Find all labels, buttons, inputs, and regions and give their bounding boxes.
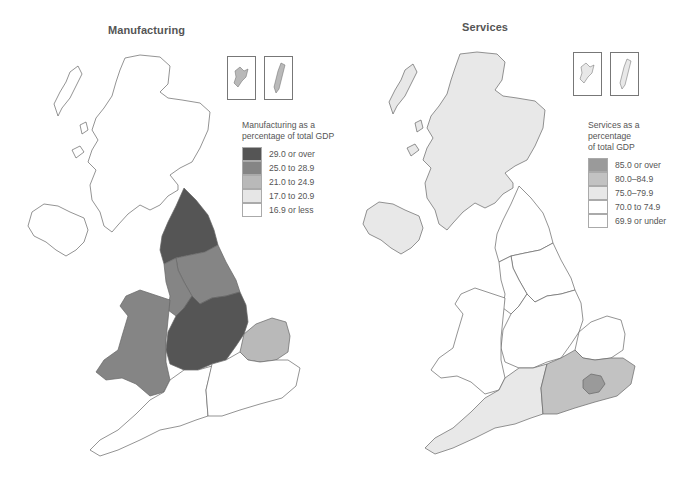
services-legend: Services as a percentageof total GDP 85.…	[588, 120, 674, 228]
legend-swatch	[242, 203, 262, 217]
shetland-inset-2	[610, 52, 639, 96]
region-wales	[431, 288, 505, 394]
legend-swatch	[242, 175, 262, 189]
region-wales	[96, 290, 170, 396]
services-panel: Services	[337, 0, 674, 477]
legend-swatch	[588, 214, 608, 228]
legend-item: 25.0 to 28.9	[242, 161, 334, 175]
legend-item: 80.0–84.9	[588, 172, 674, 186]
legend-item: 16.9 or less	[242, 203, 334, 217]
legend-item: 69.9 or under	[588, 214, 674, 228]
region-western-isles	[54, 66, 82, 116]
region-northern-ireland	[28, 204, 88, 256]
legend-swatch	[588, 158, 608, 172]
legend-item: 21.0 to 24.9	[242, 175, 334, 189]
shetland-inset-1	[227, 56, 256, 100]
legend-swatch	[588, 186, 608, 200]
legend-item: 17.0 to 20.9	[242, 189, 334, 203]
region-northern-ireland	[363, 202, 423, 254]
manufacturing-legend: Manufacturing as apercentage of total GD…	[242, 120, 334, 217]
legend-swatch	[242, 189, 262, 203]
legend-item: 85.0 or over	[588, 158, 674, 172]
legend-swatch	[242, 161, 262, 175]
legend-item: 70.0 to 74.9	[588, 200, 674, 214]
manufacturing-panel: Manufacturing	[0, 0, 337, 477]
legend-title-line2: percentage of total GDP	[242, 131, 334, 142]
legend-title-line1: Services as a percentage	[588, 120, 674, 142]
legend-item: 29.0 or over	[242, 147, 334, 161]
region-south-east	[206, 352, 300, 416]
legend-item: 75.0–79.9	[588, 186, 674, 200]
legend-swatch	[588, 172, 608, 186]
shetland-inset-1	[573, 52, 602, 96]
legend-swatch	[242, 147, 262, 161]
legend-swatch	[588, 200, 608, 214]
shetland-inset-2	[264, 56, 293, 100]
legend-title-line2: of total GDP	[588, 142, 674, 153]
legend-title-line1: Manufacturing as a	[242, 120, 334, 131]
